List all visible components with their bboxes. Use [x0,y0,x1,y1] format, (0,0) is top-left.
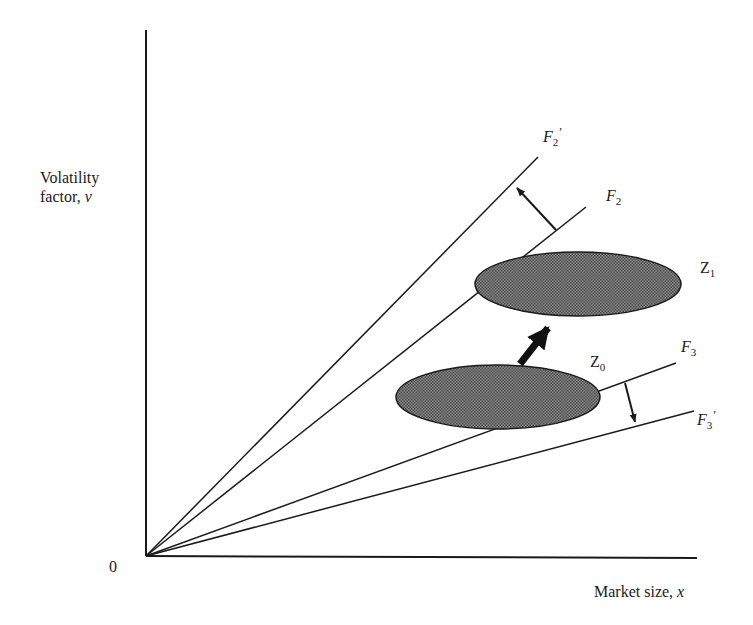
ray-f2-prime [146,157,538,556]
x-axis [146,556,697,558]
origin-label: 0 [109,557,117,576]
ray-f3-prime [146,411,694,556]
arrow-f3-shift-icon [625,383,635,422]
y-axis-label-line2: factor, v [40,187,99,206]
ellipse-z0 [396,365,600,429]
label-f2: F2 [606,186,621,205]
diagram-canvas [0,0,753,625]
arrow-f2-shift-icon [517,188,556,230]
label-f2-prime: F2′ [543,127,561,146]
label-z1: Z1 [700,258,715,277]
label-z0: Z0 [590,352,605,371]
y-axis-label-line1: Volatility [40,168,99,187]
ellipse-z1 [475,252,681,316]
label-f3: F3 [681,337,696,356]
y-axis-label: Volatility factor, v [40,168,99,206]
x-axis-label: Market size, x [594,582,684,601]
label-f3-prime: F3′ [697,410,715,429]
arrow-z0-to-z1-icon [520,328,548,364]
